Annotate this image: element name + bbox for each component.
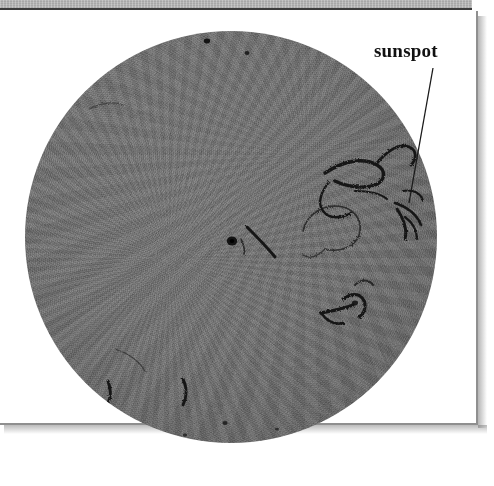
page-edge-band-texture — [0, 0, 472, 8]
solar-disk-photograph — [25, 31, 437, 443]
solar-disk — [25, 31, 437, 443]
sunspot-label: sunspot — [374, 41, 438, 60]
figure-page: sunspot — [0, 0, 494, 486]
page-edge-band — [0, 0, 472, 10]
limb-darkening — [25, 31, 437, 443]
figure-panel-shadow-right — [478, 16, 487, 428]
